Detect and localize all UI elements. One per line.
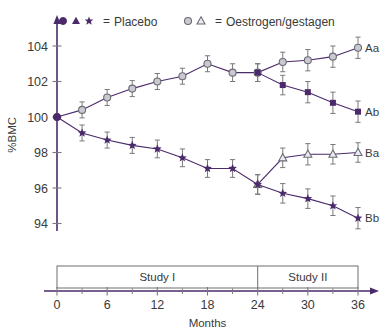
x-tick-label: 12 [150, 298, 164, 312]
x-axis-title: Months [189, 317, 227, 329]
x-tick-label: 6 [104, 298, 111, 312]
data-point-filled-square [255, 70, 261, 76]
y-tick-label: 98 [34, 146, 48, 160]
y-tick-label: 100 [27, 111, 48, 125]
data-point-open-circle [179, 73, 186, 80]
data-point-open-triangle [197, 17, 205, 24]
data-point-open-triangle [304, 150, 312, 157]
x-tick-label: 0 [54, 298, 61, 312]
data-point-filled-square [305, 89, 311, 95]
bmc-line-chart: 949698100102104%BMC061218243036MonthsStu… [0, 0, 384, 335]
series-label-Ba: Ba [365, 147, 380, 159]
series-label-Bb: Bb [365, 212, 379, 224]
legend-equals-sign: = [103, 14, 110, 28]
x-tick-label: 30 [301, 298, 315, 312]
data-point-open-circle [229, 69, 236, 76]
legend-label: Placebo [114, 15, 158, 29]
data-point-open-circle [79, 106, 86, 113]
data-point-open-triangle [354, 148, 362, 155]
legend-label: Oestrogen/gestagen [226, 15, 335, 29]
data-point-filled-square [355, 109, 361, 115]
y-axis-title: %BMC [6, 117, 18, 153]
data-point-open-circle [104, 94, 111, 101]
data-point-filled-circle [60, 18, 67, 25]
data-point-open-circle [355, 44, 362, 51]
data-point-open-circle [129, 85, 136, 92]
x-tick-label: 36 [351, 298, 365, 312]
legend-equals-sign: = [215, 14, 222, 28]
data-point-open-circle [279, 58, 286, 65]
series-label-Ab: Ab [365, 106, 379, 118]
y-tick-label: 104 [27, 40, 48, 54]
data-point-open-circle [185, 18, 192, 25]
data-point-open-circle [329, 53, 336, 60]
data-point-open-circle [154, 78, 161, 85]
series-Aa [54, 37, 362, 120]
data-point-filled-square [280, 82, 286, 88]
x-tick-label: 18 [201, 298, 215, 312]
x-tick-label: 24 [251, 298, 265, 312]
series-Ba [254, 143, 362, 194]
data-point-filled-square [330, 100, 336, 106]
data-point-filled-triangle [72, 17, 80, 24]
series-label-Aa: Aa [365, 42, 380, 54]
data-point-open-circle [204, 60, 211, 67]
data-point-filled-star [85, 16, 94, 24]
series-Ab [255, 64, 361, 123]
y-tick-label: 96 [34, 182, 48, 196]
series-Bb [54, 114, 363, 229]
y-tick-label: 94 [34, 217, 48, 231]
chart-canvas: 949698100102104%BMC061218243036MonthsStu… [0, 0, 384, 335]
study-band-label: Study II [288, 271, 327, 283]
y-tick-label: 102 [27, 75, 48, 89]
data-point-filled-circle [54, 114, 61, 121]
study-band-label: Study I [139, 271, 175, 283]
data-point-open-circle [304, 57, 311, 64]
